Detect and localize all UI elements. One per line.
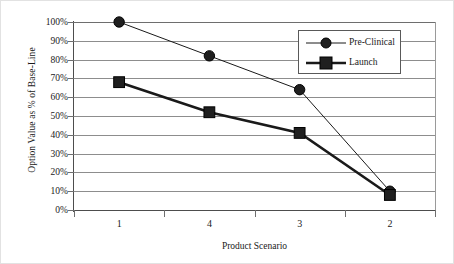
- y-tick-label: 80%: [22, 55, 68, 65]
- y-axis-tick-labels: 100%90%80%70%60%50%40%30%20%10%0%: [22, 0, 68, 264]
- y-tick-label: 50%: [22, 111, 68, 121]
- x-tick-mark: [255, 210, 256, 217]
- x-tick-mark: [435, 210, 436, 217]
- y-tick-mark: [68, 135, 74, 136]
- line-chart: Option Value as % of Base-Line 100%90%80…: [0, 0, 454, 264]
- y-tick-mark: [68, 154, 74, 155]
- y-tick-mark: [68, 60, 74, 61]
- y-tick-label: 90%: [22, 36, 68, 46]
- x-tick-mark: [74, 210, 75, 217]
- x-tick-mark: [345, 210, 346, 217]
- y-tick-mark: [68, 78, 74, 79]
- y-tick-mark: [68, 191, 74, 192]
- gridline: [74, 191, 435, 192]
- y-tick-mark: [68, 116, 74, 117]
- y-tick-mark: [68, 172, 74, 173]
- y-tick-label: 40%: [22, 130, 68, 140]
- gridline: [74, 22, 435, 23]
- legend-entry-launch[interactable]: Launch: [299, 52, 402, 74]
- y-tick-mark: [68, 41, 74, 42]
- x-axis-title: Product Scenario: [74, 241, 435, 251]
- x-tick-label: 4: [179, 218, 239, 229]
- y-tick-label: 0%: [22, 205, 68, 215]
- gridline: [74, 78, 435, 79]
- y-tick-mark: [68, 22, 74, 23]
- circle-marker-icon: [304, 32, 348, 54]
- y-tick-label: 10%: [22, 186, 68, 196]
- gridline: [74, 135, 435, 136]
- x-tick-label: 3: [270, 218, 330, 229]
- gridline: [74, 154, 435, 155]
- y-tick-label: 30%: [22, 149, 68, 159]
- y-tick-label: 20%: [22, 167, 68, 177]
- y-tick-mark: [68, 97, 74, 98]
- x-tick-mark: [164, 210, 165, 217]
- x-tick-label: 2: [360, 218, 420, 229]
- gridline: [74, 97, 435, 98]
- legend-label-pre-clinical: Pre-Clinical: [349, 37, 395, 47]
- x-tick-label: 1: [89, 218, 149, 229]
- legend-label-launch: Launch: [349, 57, 378, 67]
- y-tick-label: 60%: [22, 92, 68, 102]
- chart-legend: Pre-Clinical Launch: [298, 30, 401, 74]
- y-tick-label: 70%: [22, 73, 68, 83]
- y-tick-label: 100%: [22, 17, 68, 27]
- gridline: [74, 172, 435, 173]
- square-marker-icon: [304, 52, 348, 74]
- legend-entry-pre-clinical[interactable]: Pre-Clinical: [299, 32, 402, 54]
- gridline: [74, 116, 435, 117]
